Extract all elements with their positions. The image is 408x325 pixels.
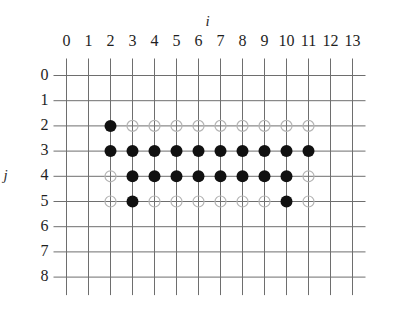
data-point-open	[259, 196, 270, 207]
lattice-grid-figure: i j 012345678910111213 012345678	[0, 0, 408, 325]
data-point-filled	[281, 170, 293, 182]
open-markers	[105, 120, 314, 207]
data-point-open	[171, 120, 182, 131]
data-point-open	[303, 171, 314, 182]
data-point-filled	[281, 196, 293, 208]
data-point-filled	[149, 170, 161, 182]
data-point-filled	[259, 145, 271, 157]
data-point-filled	[171, 145, 183, 157]
data-point-filled	[193, 170, 205, 182]
data-point-filled	[237, 145, 249, 157]
data-point-filled	[215, 170, 227, 182]
data-point-open	[281, 120, 292, 131]
data-point-filled	[127, 145, 139, 157]
data-point-filled	[127, 170, 139, 182]
data-point-open	[127, 120, 138, 131]
data-point-open	[237, 120, 248, 131]
data-point-filled	[303, 145, 315, 157]
grid-lines	[54, 59, 366, 296]
data-point-open	[215, 196, 226, 207]
data-point-filled	[127, 196, 139, 208]
filled-markers	[105, 120, 315, 208]
data-point-filled	[281, 145, 293, 157]
data-point-open	[149, 196, 160, 207]
data-point-open	[303, 196, 314, 207]
grid-and-markers-layer	[0, 0, 408, 325]
data-point-filled	[105, 145, 117, 157]
data-point-filled	[171, 170, 183, 182]
data-point-filled	[193, 145, 205, 157]
data-point-open	[193, 196, 204, 207]
data-point-open	[193, 120, 204, 131]
data-point-open	[105, 196, 116, 207]
data-point-open	[105, 171, 116, 182]
data-point-open	[215, 120, 226, 131]
data-point-open	[259, 120, 270, 131]
data-point-filled	[237, 170, 249, 182]
data-point-filled	[215, 145, 227, 157]
data-point-filled	[259, 170, 271, 182]
data-point-open	[303, 120, 314, 131]
data-point-filled	[105, 120, 117, 132]
data-point-open	[171, 196, 182, 207]
data-point-open	[237, 196, 248, 207]
data-point-open	[149, 120, 160, 131]
data-point-filled	[149, 145, 161, 157]
